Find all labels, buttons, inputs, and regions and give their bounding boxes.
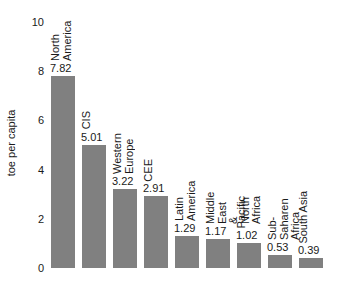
bar-category-label: CEE [143, 159, 155, 182]
bar-rect[interactable] [144, 196, 168, 268]
y-tick-label: 4 [18, 165, 44, 175]
bar-rect[interactable] [299, 258, 323, 268]
bar-value-label: 1.17 [205, 226, 226, 237]
bar-rect[interactable] [268, 255, 292, 268]
bar-value-label: 0.39 [298, 245, 319, 256]
y-tick-label: 10 [18, 17, 44, 27]
bar-value-label: 1.02 [236, 230, 257, 241]
bar-group[interactable]: 1.02Pacific [236, 0, 267, 268]
y-tick-label: 2 [18, 214, 44, 224]
y-tick-label: 8 [18, 66, 44, 76]
bar-group[interactable]: 1.17Middle East & North Africa [205, 0, 236, 268]
bar-category-label: South Asia [298, 191, 310, 244]
bar-rect[interactable] [175, 236, 199, 268]
bar-group[interactable]: 2.91CEE [143, 0, 174, 268]
bar-rect[interactable] [51, 76, 75, 268]
bar-chart: toe per capita 0246810 7.82North America… [0, 0, 356, 293]
bar-value-label: 5.01 [81, 132, 102, 143]
bar-group[interactable]: 7.82North America [50, 0, 81, 268]
bar-value-label: 3.22 [112, 176, 133, 187]
bar-group[interactable]: 0.39South Asia [298, 0, 329, 268]
bar-rect[interactable] [113, 189, 137, 268]
bar-value-label: 1.29 [174, 223, 195, 234]
bar-category-label: CIS [81, 111, 93, 129]
bar-group[interactable]: 1.29Latin America [174, 0, 205, 268]
bar-group[interactable]: 3.22Western Europe [112, 0, 143, 268]
bar-group[interactable]: 0.53Sub-Saharen Africa [267, 0, 298, 268]
bar-group[interactable]: 5.01CIS [81, 0, 112, 268]
bar-value-label: 2.91 [143, 183, 164, 194]
bar-rect[interactable] [82, 145, 106, 268]
y-tick-label: 6 [18, 115, 44, 125]
bar-rect[interactable] [237, 243, 261, 268]
bar-value-label: 7.82 [50, 63, 71, 74]
plot-area: 7.82North America5.01CIS3.22Western Euro… [48, 10, 356, 293]
bar-value-label: 0.53 [267, 242, 288, 253]
y-axis-tick-labels: 0246810 [14, 0, 44, 293]
y-tick-label: 0 [18, 263, 44, 273]
bar-category-label: Pacific [236, 196, 248, 228]
bar-rect[interactable] [206, 239, 230, 268]
